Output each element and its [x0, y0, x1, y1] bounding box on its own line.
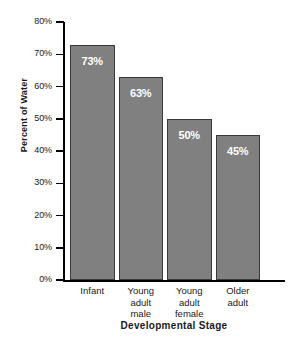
y-axis-tick-label: 30% [0, 177, 52, 187]
bar-value-label: 45% [217, 145, 260, 157]
bar-value-label: 63% [120, 87, 163, 99]
y-axis-tick [56, 21, 64, 23]
y-axis-tick [56, 54, 64, 56]
bar-value-label: 50% [168, 129, 211, 141]
x-axis-tick-label: Olderadult [210, 285, 267, 308]
y-axis-tick-label: 60% [0, 81, 52, 91]
x-axis-tick-label-line: adult [210, 297, 267, 309]
y-axis-tick-label: 50% [0, 113, 52, 123]
y-axis-tick [56, 86, 64, 88]
y-axis-tick-label: 40% [0, 145, 52, 155]
bar: 45% [216, 135, 261, 280]
y-axis-tick-label: 10% [0, 242, 52, 252]
y-axis-tick-label: 80% [0, 16, 52, 26]
y-axis-tick [56, 150, 64, 152]
y-axis-tick [56, 118, 64, 120]
x-axis-tick-label-line: female [161, 308, 218, 320]
y-axis-tick-label: 0% [0, 274, 52, 284]
x-axis-title: Developmental Stage [63, 320, 285, 331]
y-axis-tick-label: 70% [0, 48, 52, 58]
y-axis-tick [56, 183, 64, 185]
bar: 73% [70, 45, 115, 280]
y-axis-tick [56, 215, 64, 217]
x-axis-line [63, 280, 285, 282]
bar: 63% [119, 77, 164, 280]
bar: 50% [167, 119, 212, 280]
bar-chart: Percent of Water 80%70%60%50%40%30%20%10… [0, 0, 306, 340]
y-axis-tick-label: 20% [0, 210, 52, 220]
y-axis-tick [56, 247, 64, 249]
bar-value-label: 73% [71, 55, 114, 67]
x-axis-tick-label-line: Older [210, 285, 267, 297]
